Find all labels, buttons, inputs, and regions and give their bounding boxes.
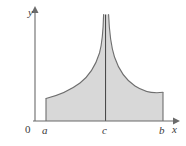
origin-label: 0 bbox=[25, 124, 31, 135]
figure-container: y x 0 a c b bbox=[0, 0, 186, 146]
y-axis-label: y bbox=[28, 7, 33, 18]
x-axis-label: x bbox=[172, 124, 177, 135]
tick-label-a: a bbox=[42, 125, 48, 136]
tick-label-c: c bbox=[102, 125, 107, 136]
shaded-region-left bbox=[46, 15, 105, 122]
tick-label-b: b bbox=[159, 125, 165, 136]
shaded-region-right bbox=[107, 15, 163, 122]
